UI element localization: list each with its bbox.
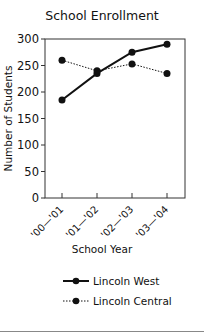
y-tick-label: 100 <box>17 138 39 152</box>
data-point <box>164 70 171 77</box>
y-axis-label: Number of Students <box>2 66 14 172</box>
y-tick-label: 150 <box>17 112 39 126</box>
divider <box>0 331 204 332</box>
data-point <box>164 41 171 48</box>
data-point <box>94 67 101 74</box>
x-tick-label: '00—'01 <box>29 204 66 241</box>
y-tick-label: 250 <box>17 59 39 73</box>
y-tick-label: 0 <box>32 191 39 205</box>
legend-label: Lincoln Central <box>93 295 172 307</box>
legend-marker <box>73 278 80 285</box>
line-chart: 050100150200250300'00—'01'01—'02'02—'03'… <box>0 0 204 336</box>
x-tick-label: '01—'02 <box>64 204 101 241</box>
x-axis-label: School Year <box>72 243 133 255</box>
legend-marker <box>73 298 80 305</box>
y-tick-label: 50 <box>24 165 39 179</box>
x-tick-label: '02—'03 <box>99 204 136 241</box>
y-tick-label: 300 <box>17 32 39 46</box>
x-tick-label: '03—'04 <box>134 204 171 241</box>
y-tick-label: 200 <box>17 85 39 99</box>
data-point <box>129 60 136 67</box>
legend-label: Lincoln West <box>93 275 159 287</box>
data-point <box>129 49 136 56</box>
data-point <box>59 57 66 64</box>
series-line <box>62 44 167 100</box>
data-point <box>59 96 66 103</box>
